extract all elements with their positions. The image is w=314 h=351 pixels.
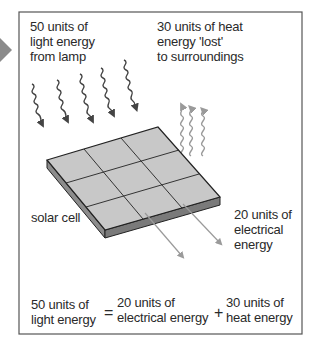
heat-output-label: 30 units of heat energy 'lost' to surrou… bbox=[157, 19, 244, 64]
light-input-label: 50 units of light energy from lamp bbox=[30, 19, 95, 64]
plus-sign: + bbox=[214, 304, 223, 322]
electric-output-label: 20 units of electrical energy bbox=[234, 207, 292, 252]
equals-sign: = bbox=[104, 304, 113, 322]
solar-cell-label: solar cell bbox=[31, 210, 80, 225]
pointer-arrow-icon bbox=[0, 38, 12, 62]
equation-term-heat: 30 units of heat energy bbox=[226, 295, 292, 325]
heat-wave-arrows bbox=[181, 106, 205, 156]
equation-term-electrical: 20 units of electrical energy bbox=[117, 295, 208, 325]
light-wave-arrows bbox=[32, 60, 136, 124]
equation-lhs: 50 units of light energy bbox=[31, 297, 96, 327]
